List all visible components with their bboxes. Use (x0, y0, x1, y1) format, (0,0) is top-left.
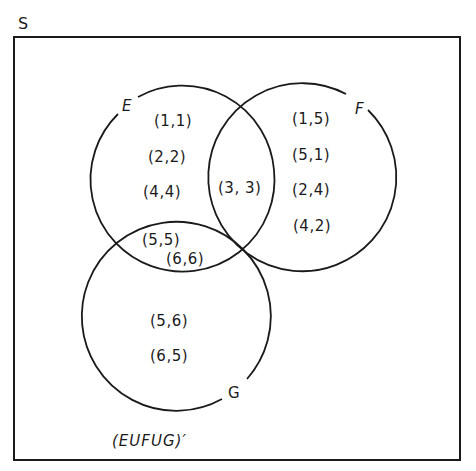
e-f-intersection-element: (3, 3) (218, 179, 261, 197)
set-g-element: (6,5) (150, 347, 188, 365)
set-e-element: (4,4) (143, 183, 181, 201)
set-f-element: (1,5) (292, 110, 330, 128)
universe-label: S (18, 14, 28, 33)
venn-diagram: S E F G (1,1) (2,2) (4,4) (3, 3) (1,5) (… (0, 0, 476, 471)
set-e-element: (1,1) (154, 112, 192, 130)
set-g-element: (5,6) (150, 312, 188, 330)
set-f-element: (5,1) (292, 146, 330, 164)
e-g-intersection-element: (5,5) (142, 231, 180, 249)
set-g-label: G (228, 384, 240, 402)
set-f-element: (4,2) (293, 217, 331, 235)
set-e-label: E (122, 97, 132, 115)
set-e-element: (2,2) (148, 148, 186, 166)
complement-label: (EUFUG)′ (112, 432, 187, 450)
e-g-intersection-element: (6,6) (166, 250, 204, 268)
set-f-label: F (355, 100, 364, 118)
set-f-element: (2,4) (292, 181, 330, 199)
